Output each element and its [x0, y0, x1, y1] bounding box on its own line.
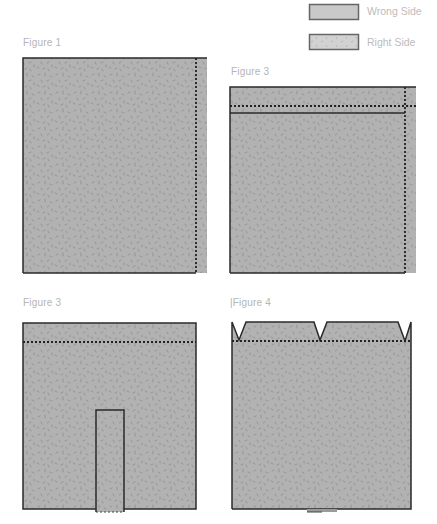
figure-4-panel [232, 322, 411, 512]
figure-1-label: Figure 1 [23, 37, 61, 48]
legend-label-right-side: Right Side [367, 36, 415, 48]
figure-4-label: |Figure 4 [230, 297, 271, 308]
legend-swatch-wrong-side [310, 5, 359, 20]
figure-3-panel [23, 323, 196, 512]
legend-swatch-right-side [310, 35, 359, 50]
figure-1-panel [23, 58, 207, 273]
inner-rectangle [96, 410, 124, 512]
diagram-canvas [0, 0, 437, 524]
figure-3-label: Figure 3 [23, 297, 61, 308]
legend-label-wrong-side: Wrong Side [367, 5, 422, 17]
figure-2-panel [230, 87, 416, 273]
figure-2-label: Figure 3 [231, 66, 269, 77]
